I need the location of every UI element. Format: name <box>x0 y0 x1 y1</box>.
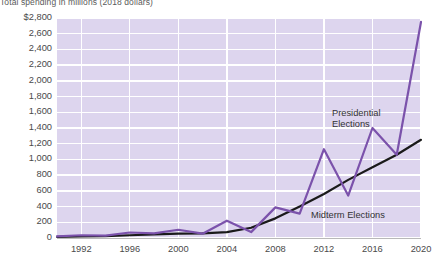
x-tick-label-2008: 2008 <box>255 244 295 254</box>
x-tick-label-2020: 2020 <box>401 244 441 254</box>
gridline-y-1800 <box>57 96 421 97</box>
y-axis: $2,8002,6002,4002,2002,0001,8001,6001,40… <box>0 18 52 238</box>
gridline-x-2012 <box>323 18 324 238</box>
gridline-x-2008 <box>275 18 276 238</box>
gridline-x-1996 <box>129 18 130 238</box>
y-tick-label-1200: 1,200 <box>29 139 52 148</box>
gridline-y-2200 <box>57 64 421 65</box>
x-axis-baseline <box>57 238 421 239</box>
gridline-y-2600 <box>57 33 421 34</box>
x-tick-label-2004: 2004 <box>207 244 247 254</box>
gridline-x-2004 <box>226 18 227 238</box>
x-axis: 19921996200020042008201220162020 <box>0 244 441 260</box>
x-tick-label-1996: 1996 <box>110 244 150 254</box>
gridline-y-2000 <box>57 80 421 81</box>
x-tick-label-2012: 2012 <box>304 244 344 254</box>
y-tick-label-0: 0 <box>47 233 52 242</box>
gridline-y-1000 <box>57 159 421 160</box>
chart-container: Total spending in millions (2018 dollars… <box>0 0 441 271</box>
gridline-y-2800 <box>57 18 421 19</box>
y-tick-label-800: 800 <box>36 170 52 179</box>
gridline-x-2020 <box>420 18 421 238</box>
presidential-annotation-line1: Presidential <box>332 108 381 119</box>
gridline-y-800 <box>57 174 421 175</box>
gridline-y-200 <box>57 222 421 223</box>
gridline-y-400 <box>57 206 421 207</box>
x-tick-label-1992: 1992 <box>61 244 101 254</box>
y-tick-label-2800: $2,800 <box>24 13 52 22</box>
x-tick-label-2016: 2016 <box>352 244 392 254</box>
x-tick-label-2000: 2000 <box>158 244 198 254</box>
gridline-y-600 <box>57 190 421 191</box>
y-tick-label-2000: 2,000 <box>29 76 52 85</box>
gridline-y-1200 <box>57 143 421 144</box>
y-tick-label-200: 200 <box>36 217 52 226</box>
y-tick-label-400: 400 <box>36 202 52 211</box>
y-tick-label-1400: 1,400 <box>29 123 52 132</box>
presidential-elections-annotation: Presidential Elections <box>332 108 381 130</box>
y-tick-label-1000: 1,000 <box>29 154 52 163</box>
y-tick-label-1600: 1,600 <box>29 107 52 116</box>
midterm-elections-annotation: Midterm Elections <box>311 210 385 221</box>
y-tick-label-1800: 1,800 <box>29 92 52 101</box>
y-tick-label-2200: 2,200 <box>29 60 52 69</box>
y-tick-label-600: 600 <box>36 186 52 195</box>
chart-title: Total spending in millions (2018 dollars… <box>0 0 153 7</box>
y-tick-label-2400: 2,400 <box>29 44 52 53</box>
gridline-y-2400 <box>57 49 421 50</box>
y-tick-label-2600: 2,600 <box>29 29 52 38</box>
presidential-annotation-line2: Elections <box>332 119 381 130</box>
gridline-x-1992 <box>81 18 82 238</box>
gridline-x-2000 <box>178 18 179 238</box>
